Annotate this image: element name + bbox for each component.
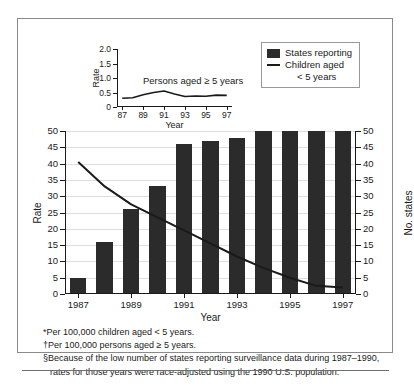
- x-tick-label: 1997: [332, 300, 353, 310]
- inset-y-tick-label: 0.5: [99, 88, 111, 97]
- y-tick-label-right: 5: [363, 273, 368, 283]
- y-tick-label-left: 35: [47, 175, 58, 185]
- bottom-divider: [22, 370, 389, 371]
- x-tick-label: 1989: [121, 300, 142, 310]
- footnote-4: rates for those years were race-adjusted…: [43, 366, 388, 379]
- y-tick-label-right: 20: [363, 224, 374, 234]
- y-tick-left: [60, 196, 65, 197]
- y-tick-label-right: 30: [363, 191, 374, 201]
- inset-y-tick: [113, 78, 117, 79]
- x-axis-title: Year: [200, 312, 220, 323]
- y-tick-right: [356, 213, 361, 214]
- inset-x-tick-label: 89: [138, 111, 147, 120]
- x-tick: [290, 294, 291, 298]
- x-tick: [237, 294, 238, 298]
- y-tick-label-left: 10: [47, 257, 58, 267]
- legend: States reporting Children aged < 5 years: [261, 42, 360, 88]
- y-tick-label-left: 40: [47, 159, 58, 169]
- inset-y-tick-label: 1.5: [99, 59, 111, 68]
- y-tick-label-right: 40: [363, 159, 374, 169]
- footnote-3: §Because of the low number of states rep…: [43, 352, 388, 365]
- left-axis-title: Rate: [32, 202, 43, 223]
- inset-y-tick: [113, 107, 117, 108]
- y-tick-left: [60, 131, 65, 132]
- y-tick-label-right: 50: [363, 126, 374, 136]
- y-tick-label-left: 45: [47, 143, 58, 153]
- legend-label-children-aged: Children aged: [285, 59, 344, 71]
- y-tick-right: [356, 131, 361, 132]
- x-tick-label: 1987: [68, 300, 89, 310]
- y-tick-right: [356, 294, 361, 295]
- y-tick-right: [356, 164, 361, 165]
- footnote-2: †Per 100,000 persons aged ≥ 5 years.: [43, 339, 388, 352]
- y-tick-left: [60, 180, 65, 181]
- y-tick-left: [60, 147, 65, 148]
- y-tick-label-left: 25: [47, 208, 58, 218]
- y-tick-left: [60, 164, 65, 165]
- inset-x-tick-label: 91: [159, 111, 168, 120]
- x-tick: [184, 294, 185, 298]
- inset-x-tick-label: 95: [201, 111, 210, 120]
- y-tick-label-left: 15: [47, 240, 58, 250]
- legend-label-states-reporting: States reporting: [285, 47, 352, 59]
- x-tick: [343, 294, 344, 298]
- y-tick-label-left: 30: [47, 191, 58, 201]
- x-tick-label: 1993: [226, 300, 247, 310]
- y-tick-right: [356, 278, 361, 279]
- right-axis-title: No. states: [403, 190, 414, 235]
- y-tick-left: [60, 261, 65, 262]
- y-tick-label-left: 0: [53, 289, 58, 299]
- y-tick-label-left: 20: [47, 224, 58, 234]
- y-tick-label-right: 25: [363, 208, 374, 218]
- y-tick-label-left: 5: [53, 273, 58, 283]
- y-tick-label-right: 15: [363, 240, 374, 250]
- line-series-children: [65, 131, 356, 294]
- inset-line-path: [122, 91, 227, 98]
- y-tick-label-left: 50: [47, 126, 58, 136]
- inset-y-tick: [113, 49, 117, 50]
- inset-y-tick: [113, 93, 117, 94]
- y-tick-label-right: 0: [363, 289, 368, 299]
- x-tick: [131, 294, 132, 298]
- y-tick-right: [356, 180, 361, 181]
- y-tick-label-right: 45: [363, 143, 374, 153]
- main-chart: Rate No. states Year 0055101015152020252…: [65, 131, 356, 294]
- x-tick-label: 1995: [279, 300, 300, 310]
- y-tick-right: [356, 196, 361, 197]
- legend-item-states-reporting: States reporting: [267, 47, 352, 59]
- legend-label-children-aged-sub: < 5 years: [267, 71, 352, 83]
- inset-line-series: [117, 49, 232, 107]
- footnote-1: *Per 100,000 children aged < 5 years.: [43, 326, 388, 339]
- inset-y-tick: [113, 64, 117, 65]
- y-tick-right: [356, 245, 361, 246]
- y-tick-left: [60, 245, 65, 246]
- legend-bar-swatch-icon: [267, 49, 280, 58]
- figure-frame: Rate Year Persons aged ≥ 5 years 00.51.0…: [17, 18, 393, 353]
- inset-chart: Rate Year Persons aged ≥ 5 years 00.51.0…: [117, 49, 232, 107]
- x-tick: [78, 294, 79, 298]
- inset-y-tick-label: 2.0: [99, 45, 111, 54]
- inset-x-tick-label: 93: [180, 111, 189, 120]
- y-tick-right: [356, 261, 361, 262]
- y-tick-right: [356, 147, 361, 148]
- y-tick-left: [60, 294, 65, 295]
- legend-item-children-line: Children aged: [267, 59, 352, 71]
- y-tick-left: [60, 213, 65, 214]
- y-tick-label-right: 35: [363, 175, 374, 185]
- line-path-children: [78, 162, 343, 288]
- legend-line-swatch-icon: [267, 64, 280, 66]
- x-tick-label: 1991: [173, 300, 194, 310]
- inset-y-tick-label: 1.0: [99, 74, 111, 83]
- inset-x-tick-label: 97: [222, 111, 231, 120]
- inset-x-axis-title: Year: [165, 120, 183, 130]
- y-tick-right: [356, 229, 361, 230]
- inset-y-tick-label: 0: [106, 103, 111, 112]
- y-tick-left: [60, 229, 65, 230]
- y-tick-left: [60, 278, 65, 279]
- y-tick-label-right: 10: [363, 257, 374, 267]
- inset-x-tick-label: 87: [117, 111, 126, 120]
